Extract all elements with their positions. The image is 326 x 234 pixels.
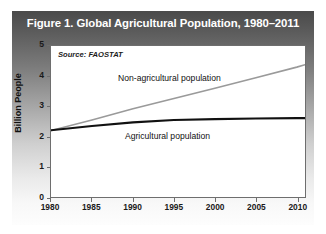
series-label-agricultural: Agricultural population [125,131,210,141]
x-tick-mark [50,198,51,202]
plot-area [50,45,306,198]
series-label-non-agricultural: Non-agricultural population [118,73,221,83]
x-tick-mark [256,198,257,202]
x-tick-label: 1995 [159,202,189,212]
y-tick-label: 3 [28,100,44,110]
y-tick-label: 4 [28,70,44,80]
x-tick-mark [133,198,134,202]
y-tick-mark [47,45,51,46]
x-tick-mark [174,198,175,202]
y-tick-mark [47,76,51,77]
x-tick-label: 1980 [35,202,65,212]
y-axis-title: Billion People [13,63,23,143]
source-annotation: Source: FAOSTAT [58,50,123,59]
x-tick-label: 2000 [200,202,230,212]
y-tick-label: 2 [28,131,44,141]
x-tick-mark [91,198,92,202]
y-tick-mark [47,106,51,107]
y-tick-label: 1 [28,161,44,171]
x-tick-label: 1985 [76,202,106,212]
chart-canvas [51,46,305,197]
x-tick-label: 2005 [241,202,271,212]
x-tick-mark [298,198,299,202]
x-tick-label: 1990 [118,202,148,212]
y-tick-label: 5 [28,39,44,49]
y-tick-mark [47,137,51,138]
y-tick-mark [47,167,51,168]
x-tick-mark [215,198,216,202]
page-title: Figure 1. Global Agricultural Population… [12,17,314,29]
y-tick-label: 0 [28,192,44,202]
x-tick-label: 2010 [283,202,313,212]
figure-container: Figure 1. Global Agricultural Population… [0,0,326,234]
